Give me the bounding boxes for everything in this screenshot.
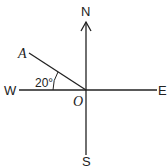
label-angle: 20° (35, 76, 53, 90)
label-north: N (81, 4, 90, 19)
label-east: E (158, 83, 167, 98)
angle-arc (53, 72, 58, 90)
label-point-a: A (17, 46, 27, 61)
compass-diagram: N S E W O A 20° (0, 0, 168, 168)
label-south: S (82, 154, 91, 168)
label-west: W (4, 83, 17, 98)
label-origin: O (73, 94, 83, 109)
